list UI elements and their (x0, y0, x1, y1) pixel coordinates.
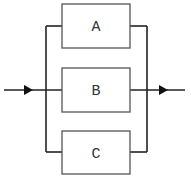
block-b-label: B (91, 83, 100, 100)
output-arrow-icon (159, 85, 168, 95)
block-c-label: C (91, 146, 100, 163)
block-a-label: A (91, 19, 100, 36)
block-a: A (62, 4, 130, 48)
input-arrow-icon (24, 85, 33, 95)
parallel-diagram: A B C (0, 0, 191, 180)
block-c: C (62, 131, 130, 174)
block-b: B (62, 68, 130, 112)
